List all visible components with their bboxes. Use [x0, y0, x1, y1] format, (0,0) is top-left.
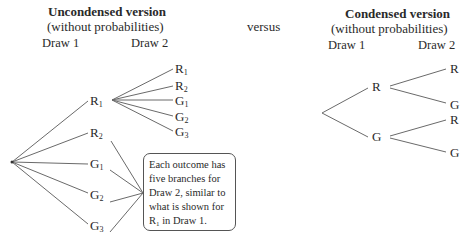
branch-root-g3: [12, 162, 88, 224]
uncondensed-subtitle: (without probabilities): [47, 19, 164, 35]
condensed-subtitle: (without probabilities): [331, 21, 448, 37]
branch-r1-r1: [112, 69, 173, 100]
branch-r1-g3: [112, 100, 173, 131]
draw2-node-r1: R1: [175, 62, 188, 79]
branch-r1-g2: [112, 100, 173, 116]
branch-root-r1: [12, 101, 88, 162]
branch-root-r2: [12, 133, 88, 162]
right-draw1-header: Draw 1: [328, 38, 365, 53]
callout-line: what is shown for: [149, 200, 231, 214]
left-draw1-header: Draw 1: [42, 36, 79, 51]
condensed-draw2-g-top: G: [450, 98, 459, 111]
branch-r-r: [390, 69, 446, 86]
branch-root-g2: [12, 162, 88, 193]
draw1-node-r2: R2: [90, 126, 103, 143]
pointer-g2: [110, 193, 143, 202]
branch-root-g1: [12, 162, 88, 164]
left-draw2-header: Draw 2: [131, 36, 168, 51]
branch-r1-r2: [112, 86, 173, 100]
callout-box: Each outcome has five branches for Draw …: [143, 153, 236, 231]
versus-label: versus: [247, 19, 280, 35]
callout-line: R1 in Draw 1.: [149, 214, 231, 231]
draw1-node-g1: G1: [90, 157, 103, 174]
branch-root-g: [322, 113, 368, 137]
condensed-draw1-r: R: [372, 80, 381, 93]
pointer-g3: [110, 193, 143, 232]
branch-root-r: [322, 88, 368, 113]
condensed-draw2-g-bottom: G: [450, 146, 459, 159]
branch-g-r: [390, 120, 446, 136]
condensed-draw1-g: G: [372, 130, 381, 143]
callout-line: Each outcome has: [149, 158, 231, 172]
condensed-draw2-r-top: R: [450, 62, 459, 75]
pointer-r2: [111, 141, 143, 193]
callout-line: five branches for: [149, 172, 231, 186]
branch-g-g: [390, 138, 446, 152]
draw1-node-g2: G2: [90, 188, 103, 205]
pointer-g1: [110, 170, 143, 193]
uncondensed-title: Uncondensed version: [48, 4, 166, 20]
draw1-node-g3: G3: [90, 219, 103, 236]
draw2-node-g3: G3: [175, 125, 188, 142]
branch-r-g: [390, 88, 446, 103]
callout-line: Draw 2, similar to: [149, 186, 231, 200]
root-dot: [11, 161, 14, 164]
condensed-title: Condensed version: [345, 6, 450, 22]
draw1-node-r1: R1: [90, 94, 103, 111]
condensed-draw2-r-bottom: R: [450, 113, 459, 126]
right-draw2-header: Draw 2: [418, 38, 455, 53]
